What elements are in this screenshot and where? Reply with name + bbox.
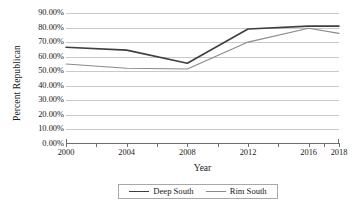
y-axis-tick-label: 60.00% [16, 53, 64, 61]
y-axis-tick-labels: 0.00%10.00%20.00%30.00%40.00%50.00%60.00… [16, 0, 64, 209]
x-axis-tick [66, 143, 67, 147]
x-axis-tick [157, 143, 158, 147]
x-axis-tick-label: 2000 [46, 148, 86, 158]
y-axis-tick-label: 50.00% [16, 67, 64, 75]
legend-label-rim-south: Rim South [230, 187, 267, 196]
x-axis-tick [278, 143, 279, 147]
x-axis-tick [218, 143, 219, 147]
x-axis-tick [248, 143, 249, 147]
x-axis-tick [339, 143, 340, 147]
legend-item-rim-south: Rim South [206, 187, 267, 196]
x-axis-tick [96, 143, 97, 147]
series-lines [66, 26, 339, 69]
x-axis-tick-label: 2018 [319, 148, 352, 158]
legend-line-icon-deep-south [129, 191, 149, 192]
x-axis-tick-label: 2008 [167, 148, 207, 158]
y-axis-tick-label: 10.00% [16, 125, 64, 133]
plot-area [66, 13, 339, 144]
x-axis-line [66, 143, 339, 144]
y-axis-tick-label: 80.00% [16, 24, 64, 32]
x-axis-tick [127, 143, 128, 147]
x-axis-title: Year [66, 163, 339, 173]
legend-label-deep-south: Deep South [153, 187, 193, 196]
series-line-deep-south [66, 26, 339, 63]
x-axis-tick [309, 143, 310, 147]
x-axis-tick-labels: 200020042008201220162018 [66, 148, 339, 162]
x-axis-tick [324, 143, 325, 147]
x-axis-tick-label: 2004 [107, 148, 147, 158]
legend-line-icon-rim-south [206, 191, 226, 192]
series-layer [66, 13, 339, 144]
chart-legend: Deep South Rim South [118, 184, 278, 199]
x-axis-tick-label: 2012 [228, 148, 268, 158]
x-axis-tick [187, 143, 188, 147]
legend-item-deep-south: Deep South [129, 187, 193, 196]
y-axis-tick-label: 70.00% [16, 38, 64, 46]
y-axis-tick-label: 40.00% [16, 82, 64, 90]
y-axis-tick-label: 30.00% [16, 96, 64, 104]
y-axis-tick-label: 20.00% [16, 111, 64, 119]
y-axis-tick-label: 90.00% [16, 9, 64, 17]
